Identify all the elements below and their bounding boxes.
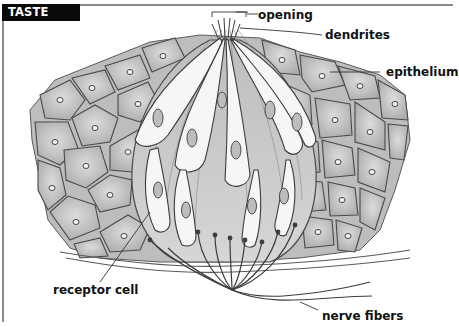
label-dendrites: dendrites bbox=[325, 28, 390, 42]
label-opening: opening bbox=[258, 8, 313, 22]
diagram-title: TASTE BUD bbox=[2, 4, 80, 21]
label-nerve-fibers: nerve fibers bbox=[322, 309, 403, 323]
label-epithelium: epithelium bbox=[386, 65, 459, 79]
label-receptor-cell: receptor cell bbox=[53, 283, 138, 297]
